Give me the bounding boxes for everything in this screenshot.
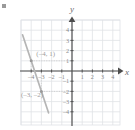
svg-text:(–3, –2): (–3, –2)	[21, 91, 44, 99]
svg-text:(–4, 1): (–4, 1)	[36, 50, 55, 58]
svg-text:4: 4	[111, 73, 114, 80]
svg-text:–3: –3	[62, 98, 69, 105]
svg-text:1: 1	[66, 57, 69, 64]
svg-text:1: 1	[81, 73, 84, 80]
svg-text:x: x	[124, 67, 129, 77]
svg-text:–3: –3	[37, 73, 44, 80]
svg-text:–2: –2	[48, 73, 55, 80]
svg-text:–1: –1	[62, 77, 69, 84]
svg-text:3: 3	[101, 73, 104, 80]
svg-text:–4: –4	[62, 108, 69, 115]
svg-text:2: 2	[66, 47, 69, 54]
svg-text:–2: –2	[62, 88, 69, 95]
svg-text:y: y	[69, 4, 74, 14]
svg-text:4: 4	[66, 26, 69, 33]
svg-text:3: 3	[66, 37, 69, 44]
bullet-mark-icon	[2, 4, 6, 8]
graph-canvas: –4–3–2–112344321–1–2–3–4 (–4, 1)(–3, –2)…	[0, 0, 135, 130]
plotted-line	[23, 35, 49, 113]
coordinate-plane-figure: –4–3–2–112344321–1–2–3–4 (–4, 1)(–3, –2)…	[0, 0, 135, 130]
svg-text:–4: –4	[27, 73, 34, 80]
svg-text:2: 2	[91, 73, 94, 80]
